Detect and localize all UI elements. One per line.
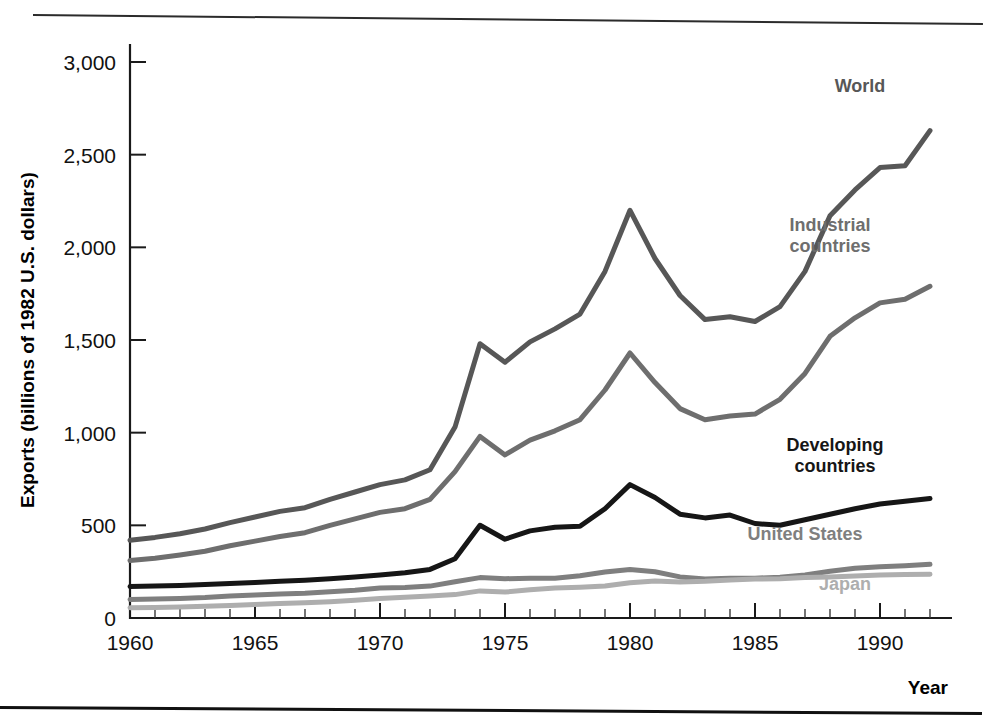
y-axis-title: Exports (billions of 1982 U.S. dollars): [17, 172, 38, 508]
series-label-group: Japan: [819, 574, 871, 594]
chart-render-root: 05001,0001,5002,0002,5003,00019601965197…: [17, 44, 952, 698]
series-label-group: United States: [747, 524, 862, 544]
series-label: Developing: [786, 435, 883, 455]
y-tick-label: 2,500: [63, 144, 116, 167]
y-tick-label: 0: [104, 607, 116, 630]
x-tick-label: 1960: [107, 631, 154, 654]
series-label: World: [835, 76, 886, 96]
y-tick-label: 1,000: [63, 422, 116, 445]
x-tick-label: 1965: [232, 631, 279, 654]
y-tick-label: 500: [81, 514, 116, 537]
series-label: Industrial: [789, 215, 870, 235]
y-tick-label: 3,000: [63, 51, 116, 74]
x-tick-label: 1975: [482, 631, 529, 654]
series-label: countries: [789, 236, 870, 256]
series-label-group: World: [835, 76, 886, 96]
series-label-group: Developingcountries: [786, 435, 883, 476]
series-label: countries: [794, 456, 875, 476]
series-label: United States: [747, 524, 862, 544]
x-tick-label: 1990: [857, 631, 904, 654]
x-tick-label: 1980: [607, 631, 654, 654]
series-label: Japan: [819, 574, 871, 594]
chart-area: 05001,0001,5002,0002,5003,00019601965197…: [0, 22, 982, 706]
x-axis-title: Year: [908, 677, 949, 698]
series-line-world: [130, 131, 930, 541]
line-chart-svg: 05001,0001,5002,0002,5003,00019601965197…: [0, 22, 982, 706]
y-tick-label: 1,500: [63, 329, 116, 352]
figure-title-cropped: [0, 0, 982, 12]
x-tick-label: 1985: [732, 631, 779, 654]
bottom-divider-rule: [0, 706, 982, 715]
y-tick-label: 2,000: [63, 236, 116, 259]
series-label-group: Industrialcountries: [789, 215, 870, 256]
x-tick-label: 1970: [357, 631, 404, 654]
